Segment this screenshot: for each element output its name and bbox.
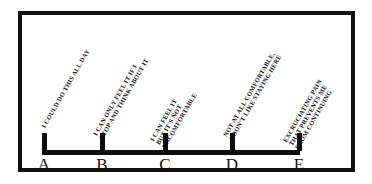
pain-scale-figure: A B C D E I COULD DO THIS ALL DAY I CAN … — [0, 0, 372, 184]
scale-tick-a — [42, 133, 47, 151]
scale-letter-a: A — [31, 155, 57, 174]
scale-letter-d: D — [219, 155, 245, 174]
scale-letter-c: C — [152, 155, 178, 174]
scale-letter-b: B — [89, 155, 115, 174]
scale-letter-e: E — [286, 155, 312, 174]
